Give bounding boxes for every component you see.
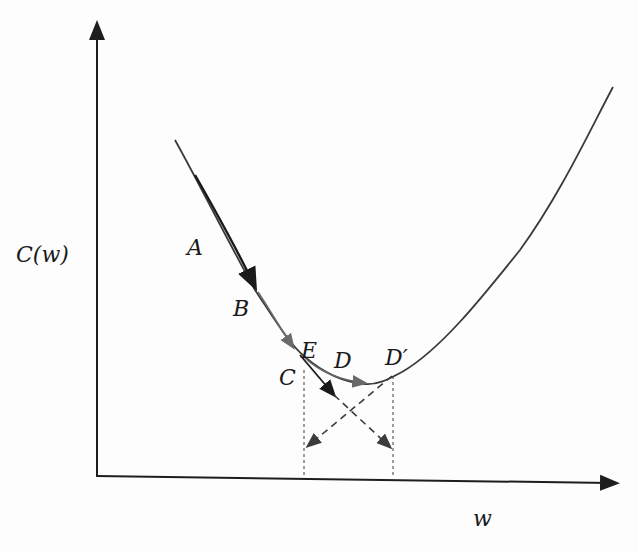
point-label-b: B — [232, 296, 249, 321]
overshoot-dashed — [304, 370, 393, 478]
dashed-arrow-c-to-right — [334, 395, 390, 447]
gradient-descent-diagram: C(w) w A B C E D D′ — [0, 0, 638, 552]
labels: C(w) w A B C E D D′ — [16, 235, 492, 531]
dashed-arrow-dprime-to-left — [308, 376, 392, 446]
arrow-b-to-c — [258, 292, 293, 347]
point-label-d: D — [333, 348, 352, 373]
x-axis-label: w — [473, 506, 492, 531]
y-axis-label: C(w) — [16, 242, 69, 267]
point-label-d-prime: D′ — [384, 345, 408, 370]
point-label-e: E — [300, 338, 317, 363]
x-axis — [96, 476, 610, 483]
axes — [96, 30, 610, 483]
point-label-c: C — [279, 365, 296, 390]
point-label-a: A — [185, 235, 203, 260]
arrow-a-to-b — [195, 175, 255, 287]
cost-curve — [175, 87, 613, 384]
